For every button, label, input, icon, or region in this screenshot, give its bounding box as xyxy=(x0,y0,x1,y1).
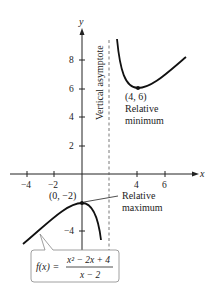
y-tick-label: 8 xyxy=(69,55,74,65)
x-tick-label: −2 xyxy=(48,180,58,190)
x-tick-label: 6 xyxy=(162,180,167,190)
relative-minimum-point xyxy=(136,86,140,90)
min-coordinate-label: (4, 6) xyxy=(125,91,147,103)
function-name-label: f(x) = xyxy=(36,261,59,273)
relative-maximum-point xyxy=(80,201,84,205)
min-label-line1: Relative xyxy=(125,103,159,114)
x-axis-label: x xyxy=(199,168,205,179)
max-coordinate-label: (0, −2) xyxy=(49,190,76,202)
right-branch-curve xyxy=(117,39,186,88)
left-branch-curve xyxy=(23,203,101,244)
y-tick-label: 6 xyxy=(69,84,74,94)
max-label-line1: Relative xyxy=(122,190,156,201)
min-label-line2: minimum xyxy=(125,115,164,126)
formula-numerator: x² − 2x + 4 xyxy=(66,255,110,265)
x-tick-label: −4 xyxy=(21,180,31,190)
max-leader-line xyxy=(84,196,118,202)
max-label-line2: maximum xyxy=(122,202,163,213)
y-axis-label: y xyxy=(78,16,84,27)
y-arrow-icon xyxy=(80,28,85,35)
asymptote-label: Vertical asymptote xyxy=(94,45,105,120)
formula-denominator: x − 2 xyxy=(79,270,100,280)
x-tick-label: 4 xyxy=(134,180,139,190)
y-tick-label: −4 xyxy=(64,226,74,236)
x-arrow-icon xyxy=(192,172,199,177)
graph: y x −4 −2 4 6 8 6 4 2 −4 Vertical asympt… xyxy=(0,0,211,284)
y-tick-label: 4 xyxy=(69,112,74,122)
y-tick-label: 2 xyxy=(69,141,74,151)
